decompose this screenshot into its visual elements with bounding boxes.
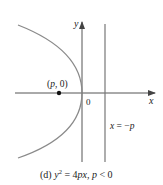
focus-label: (p, 0): [47, 79, 68, 90]
origin-label: 0: [86, 97, 91, 107]
parabola-diagram: y x 0 (p, 0) x = −p (d) y2 = 4px, p < 0: [0, 0, 163, 185]
x-axis-label: x: [148, 95, 154, 106]
figure-caption: (d) y2 = 4px, p < 0: [40, 168, 113, 181]
y-axis-label: y: [73, 18, 79, 29]
directrix-label: x = −p: [109, 121, 135, 131]
focus-point: [57, 91, 61, 95]
parabola-curve: [18, 25, 82, 158]
